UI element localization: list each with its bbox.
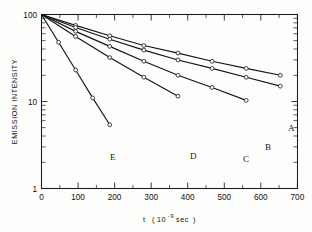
data-point [57,40,61,44]
data-point [244,75,248,79]
xtick-label-700: 700 [291,193,305,202]
data-point [74,29,78,33]
curve-label-a: A [288,123,295,133]
x-axis-title-symbol: t [143,215,146,224]
data-point [210,67,214,71]
emission-decay-chart: 100 10 1 0 100 200 300 400 500 600 700 E… [0,0,312,232]
data-point [108,44,112,48]
data-point [244,98,248,102]
data-point [74,68,78,72]
x-axis-title-base: 10 [157,215,166,224]
ytick-label-100: 100 [23,11,37,20]
xtick-label-400: 400 [181,193,195,202]
y-axis-log-ticks [42,15,298,189]
x-axis-major-ticks [42,15,298,189]
y-axis-title: EMISSION INTENSITY [10,59,19,144]
ytick-label-10: 10 [28,98,38,107]
data-point [278,84,282,88]
data-point [142,59,146,63]
data-point [108,123,112,127]
data-point [142,75,146,79]
curve-label-d: D [190,151,197,161]
x-axis-title-exponent: -9 [168,213,174,219]
data-point [74,35,78,39]
xtick-label-100: 100 [71,193,85,202]
curve-label-c: C [243,154,249,164]
data-point [210,86,214,90]
plot-frame [42,15,298,189]
decay-curves [42,15,283,127]
x-axis-title-paren-open: ( [152,215,155,224]
curve-line-a [42,15,281,76]
data-point [244,67,248,71]
curve-label-b: B [265,142,271,152]
curve-label-e: E [110,152,116,162]
data-point [91,96,95,100]
data-point [176,58,180,62]
xtick-label-300: 300 [144,193,158,202]
data-point [176,51,180,55]
xtick-label-200: 200 [108,193,122,202]
data-point [108,56,112,60]
data-point [176,94,180,98]
data-point [142,44,146,48]
xtick-label-0: 0 [39,193,44,202]
data-point [74,26,78,30]
data-point [210,59,214,63]
curve-line-c [42,15,247,101]
data-point [142,48,146,52]
x-axis-title: t ( 10 -9 sec ) [143,213,196,225]
data-point [278,73,282,77]
curve-c [42,15,249,103]
curve-a [42,15,283,78]
x-axis-title-unit: sec [176,215,189,224]
ytick-label-1: 1 [32,185,37,194]
xtick-label-600: 600 [254,193,268,202]
x-axis-title-paren-close: ) [193,215,196,224]
xtick-label-500: 500 [217,193,231,202]
data-point [176,73,180,77]
data-point [108,37,112,41]
curve-d [42,15,180,99]
